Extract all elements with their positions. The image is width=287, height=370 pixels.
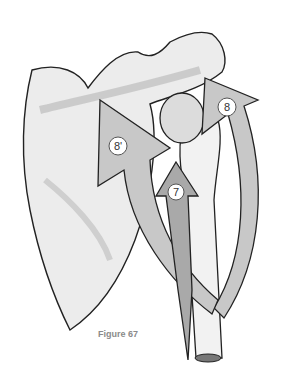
humeral-head: [160, 93, 204, 143]
figure-caption: Figure 67: [98, 329, 138, 339]
label-7: 7: [173, 186, 179, 198]
humerus-end: [195, 354, 221, 362]
figure-canvas: 8 8' 7 Figure 67: [0, 0, 287, 370]
label-8-prime: 8': [114, 140, 122, 152]
label-8: 8: [224, 101, 230, 113]
shoulder-illustration: 8 8' 7: [0, 0, 287, 370]
